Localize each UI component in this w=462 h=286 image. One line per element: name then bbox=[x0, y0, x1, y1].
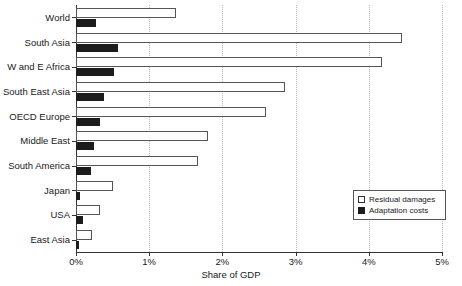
y-tick-mark bbox=[72, 17, 76, 18]
y-tick-label-south-america: South America bbox=[0, 160, 70, 171]
y-tick-mark bbox=[72, 116, 76, 117]
y-tick-mark bbox=[72, 240, 76, 241]
y-tick-mark bbox=[72, 190, 76, 191]
filled-square-icon bbox=[358, 207, 365, 214]
x-tick-mark bbox=[296, 252, 297, 256]
chart-legend: Residual damages Adaptation costs bbox=[353, 190, 446, 220]
legend-item-residual-damages: Residual damages bbox=[358, 194, 441, 205]
bar-residual-damages bbox=[76, 205, 100, 215]
bar-residual-damages bbox=[76, 82, 285, 92]
x-axis-title: Share of GDP bbox=[0, 269, 462, 280]
x-axis-line bbox=[76, 252, 442, 253]
bar-adaptation-costs bbox=[76, 216, 83, 224]
bar-residual-damages bbox=[76, 156, 198, 166]
bar-adaptation-costs bbox=[76, 68, 114, 76]
bar-adaptation-costs bbox=[76, 19, 96, 27]
bar-residual-damages bbox=[76, 57, 382, 67]
legend-label: Adaptation costs bbox=[369, 206, 428, 215]
x-tick-label-2pct: 2% bbox=[216, 256, 230, 267]
bar-adaptation-costs bbox=[76, 93, 104, 101]
bar-group-oecd-europe bbox=[76, 104, 442, 129]
y-tick-mark bbox=[72, 67, 76, 68]
bar-residual-damages bbox=[76, 33, 402, 43]
bar-residual-damages bbox=[76, 107, 266, 117]
x-tick-mark bbox=[369, 252, 370, 256]
y-tick-label-east-asia: East Asia bbox=[0, 234, 70, 245]
bar-residual-damages bbox=[76, 181, 113, 191]
y-tick-mark bbox=[72, 215, 76, 216]
bar-adaptation-costs bbox=[76, 118, 100, 126]
x-tick-mark bbox=[76, 252, 77, 256]
x-tick-label-3pct: 3% bbox=[289, 256, 303, 267]
bar-group-south-asia bbox=[76, 30, 442, 55]
y-tick-label-south-east-asia: South East Asia bbox=[0, 86, 70, 97]
bar-adaptation-costs bbox=[76, 167, 91, 175]
y-tick-mark bbox=[72, 42, 76, 43]
x-tick-label-1pct: 1% bbox=[142, 256, 156, 267]
bar-residual-damages bbox=[76, 131, 208, 141]
y-tick-label-japan: Japan bbox=[0, 185, 70, 196]
y-tick-mark bbox=[72, 166, 76, 167]
legend-label: Residual damages bbox=[369, 195, 435, 204]
bar-adaptation-costs bbox=[76, 142, 94, 150]
bar-residual-damages bbox=[76, 230, 92, 240]
chart-container: WorldSouth AsiaW and E AfricaSouth East … bbox=[0, 0, 462, 286]
x-tick-label-0pct: 0% bbox=[69, 256, 83, 267]
open-square-icon bbox=[358, 196, 365, 203]
x-tick-label-5pct: 5% bbox=[435, 256, 449, 267]
y-tick-label-oecd-europe: OECD Europe bbox=[0, 111, 70, 122]
x-tick-mark bbox=[222, 252, 223, 256]
y-tick-mark bbox=[72, 141, 76, 142]
y-tick-mark bbox=[72, 91, 76, 92]
x-tick-label-4pct: 4% bbox=[362, 256, 376, 267]
y-tick-label-usa: USA bbox=[0, 209, 70, 220]
y-tick-label-south-asia: South Asia bbox=[0, 37, 70, 48]
legend-item-adaptation-costs: Adaptation costs bbox=[358, 205, 441, 216]
bar-group-south-east-asia bbox=[76, 79, 442, 104]
bar-group-south-america bbox=[76, 153, 442, 178]
bar-adaptation-costs bbox=[76, 192, 80, 200]
x-tick-mark bbox=[149, 252, 150, 256]
x-tick-mark bbox=[442, 252, 443, 256]
bar-group-world bbox=[76, 5, 442, 30]
bar-group-middle-east bbox=[76, 129, 442, 154]
bar-residual-damages bbox=[76, 8, 176, 18]
bar-group-w-and-e-africa bbox=[76, 54, 442, 79]
y-tick-label-w-and-e-africa: W and E Africa bbox=[0, 61, 70, 72]
bar-adaptation-costs bbox=[76, 241, 79, 249]
y-tick-label-world: World bbox=[0, 12, 70, 23]
bar-group-east-asia bbox=[76, 227, 442, 252]
bar-adaptation-costs bbox=[76, 44, 118, 52]
y-tick-label-middle-east: Middle East bbox=[0, 135, 70, 146]
